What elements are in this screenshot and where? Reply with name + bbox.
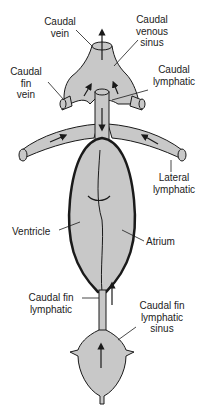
label-caudal-fin-vein: Caudal fin vein bbox=[6, 66, 46, 101]
caudal-fin-lymphatic-sinus-shape bbox=[70, 330, 134, 404]
label-caudal-venous-sinus: Caudal venous sinus bbox=[130, 14, 174, 49]
label-atrium: Atrium bbox=[146, 236, 175, 248]
lymph-heart-diagram bbox=[0, 0, 204, 412]
label-lateral-lymphatic: Lateral lymphatic bbox=[148, 172, 200, 195]
label-caudal-fin-lymphatic: Caudal fin lymphatic bbox=[24, 292, 78, 315]
label-caudal-fin-lymphatic-sinus: Caudal fin lymphatic sinus bbox=[132, 300, 192, 335]
label-ventricle: Ventricle bbox=[12, 226, 50, 238]
caudal-fin-lymphatic-shape bbox=[99, 290, 106, 332]
label-caudal-vein: Caudal vein bbox=[40, 16, 80, 39]
label-caudal-lymphatic: Caudal lymphatic bbox=[146, 64, 202, 87]
